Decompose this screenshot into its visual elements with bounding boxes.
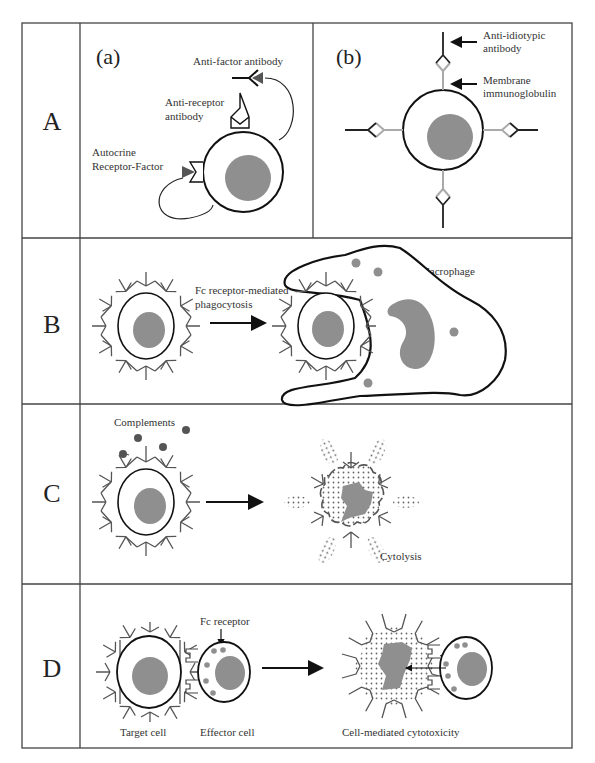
phagocytosis-label-2: phagocytosis — [195, 298, 252, 310]
anti-idiotypic-label-2: antibody — [483, 42, 522, 54]
membrane-ig-label-1: Membrane — [483, 74, 531, 86]
panel-label-c: C — [43, 479, 60, 508]
nucleus — [427, 114, 473, 160]
panel-label-b: B — [43, 310, 60, 339]
effector-cell — [198, 642, 250, 702]
sub-label-a: (a) — [96, 44, 120, 69]
granule — [374, 268, 383, 277]
opsonized-cell — [92, 272, 200, 380]
anti-receptor-antibody — [231, 93, 249, 128]
ig-complex-bottom — [436, 170, 450, 228]
target-cell-label: Target cell — [120, 726, 166, 738]
panel-b: Fc receptor-mediated phagocytosis Macrop… — [92, 246, 506, 405]
lysed-cell — [284, 436, 419, 565]
anti-receptor-label-1: Anti-receptor — [165, 96, 225, 108]
autocrine-label-1: Autocrine — [92, 146, 136, 158]
target-cell — [96, 621, 204, 724]
granule — [450, 328, 459, 337]
killed-target-cell — [342, 614, 446, 718]
cytotoxicity-label: Cell-mediated cytotoxicity — [342, 726, 460, 738]
ig-complex-right — [483, 123, 538, 137]
nucleus — [225, 155, 271, 201]
cytolysis-label: Cytolysis — [380, 550, 422, 562]
anti-idiotypic-label-1: Anti-idiotypic — [483, 29, 545, 41]
anti-factor-label: Anti-factor antibody — [193, 55, 284, 67]
granule — [364, 379, 373, 388]
complement-dot — [159, 443, 167, 451]
panel-a-sub-a: (a) Anti-factor antibody Anti-receptor a… — [92, 44, 293, 219]
autocrine-label-2: Receptor-Factor — [92, 160, 164, 172]
panel-label-a: A — [43, 107, 62, 136]
ig-complex-left — [345, 123, 403, 137]
panel-a-sub-b: (a) (b) Anti-idiotypic antibody Membrane… — [336, 29, 557, 228]
sub-label-b-text: (b) — [336, 44, 362, 69]
membrane-ig-label-2: immunoglobulin — [483, 87, 557, 99]
fc-receptor-label: Fc receptor — [200, 615, 250, 627]
immune-mechanism-figure: A B C D (a) Anti-factor antibody Anti-re… — [0, 0, 595, 763]
phagocytosis-label-1: Fc receptor-mediated — [195, 284, 289, 296]
panel-label-d: D — [43, 654, 62, 683]
panel-c: Complements — [92, 416, 422, 566]
fc-receptors — [186, 649, 198, 693]
effector-cell-attacking — [440, 637, 492, 699]
complement-coated-cell — [92, 446, 200, 556]
complement-dot — [182, 426, 190, 434]
ig-complex-top — [436, 32, 450, 90]
effector-cell-label: Effector cell — [200, 726, 254, 738]
anti-receptor-label-2: antibody — [165, 110, 204, 122]
complement-dot — [134, 434, 142, 442]
complements-label: Complements — [114, 416, 175, 428]
panel-d: Fc receptor Target cell Effector cell Ce… — [96, 614, 492, 738]
granule — [352, 259, 361, 268]
anti-factor-curve — [265, 78, 293, 140]
